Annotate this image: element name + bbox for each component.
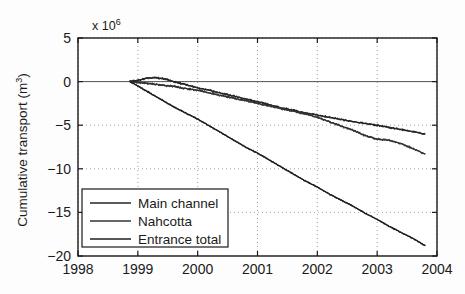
x-tick-label: 1999 xyxy=(122,261,153,277)
svg-text:Cumulative transport (m3): Cumulative transport (m3) xyxy=(14,73,30,227)
figure-canvas: 1998199920002001200220032004 50−5−10−15−… xyxy=(0,0,465,294)
y-axis-exponent-label: x 106 xyxy=(92,17,121,33)
y-tick-label: −15 xyxy=(47,204,71,220)
chart-plot: 1998199920002001200220032004 50−5−10−15−… xyxy=(0,0,465,294)
y-axis-tick-labels: 50−5−10−15−20 xyxy=(47,30,71,264)
y-tick-label: −20 xyxy=(47,248,71,264)
x-tick-label: 2001 xyxy=(242,261,273,277)
y-axis-title: Cumulative transport (m3) xyxy=(14,73,30,227)
legend-item-label: Entrance total xyxy=(138,232,221,247)
x-tick-label: 2003 xyxy=(362,261,393,277)
x-tick-label: 2000 xyxy=(182,261,213,277)
y-tick-label: 5 xyxy=(63,30,71,46)
legend-item-label: Main channel xyxy=(138,196,218,211)
legend-item-label: Nahcotta xyxy=(138,214,193,229)
y-tick-label: 0 xyxy=(63,74,71,90)
y-tick-label: −5 xyxy=(55,117,71,133)
y-tick-label: −10 xyxy=(47,161,71,177)
chart-legend[interactable]: Main channelNahcottaEntrance total xyxy=(82,189,228,247)
x-axis-tick-labels: 1998199920002001200220032004 xyxy=(62,261,452,277)
x-tick-label: 2004 xyxy=(421,261,452,277)
x-tick-label: 2002 xyxy=(302,261,333,277)
